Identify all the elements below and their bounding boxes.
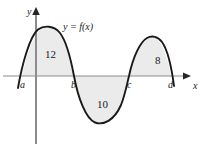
area-value-label-8: 8: [155, 55, 161, 66]
x-axis-label: x: [193, 81, 197, 91]
y-axis-arrowhead: [32, 7, 40, 15]
function-graph-svg: [0, 0, 204, 144]
area-value-label-10: 10: [97, 99, 108, 110]
x-tick-label-c: c: [127, 80, 131, 90]
x-tick-label-d: d: [168, 80, 173, 90]
x-tick-label-a: a: [20, 80, 25, 90]
function-equation-label: y = f(x): [63, 22, 93, 32]
y-axis-label: y: [27, 7, 31, 17]
x-tick-label-b: b: [71, 80, 76, 90]
area-value-label-12: 12: [45, 49, 56, 60]
x-axis-arrowhead: [183, 72, 191, 79]
graph-figure: y x a b c d 12 10 8 y = f(x): [0, 0, 204, 144]
